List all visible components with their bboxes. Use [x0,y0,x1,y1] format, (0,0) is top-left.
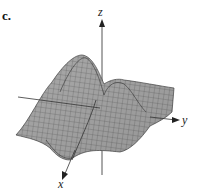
surface-plot: z y x [0,0,215,189]
z-axis-arrow-icon [99,19,105,27]
y-axis-arrow-icon [172,117,180,123]
x-axis-label: x [57,177,64,189]
z-axis-label: z [97,5,103,19]
y-axis-label: y [181,113,188,127]
